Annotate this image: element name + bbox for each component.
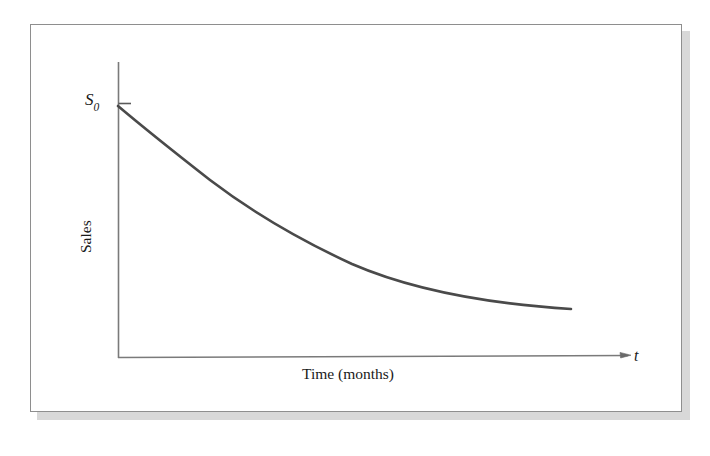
x-axis-line (118, 356, 628, 358)
y-intercept-label: S0 (85, 91, 99, 112)
figure-canvas: Sales S0 Time (months) t (0, 0, 710, 456)
plot-area (0, 0, 710, 456)
y-intercept-label-subscript: 0 (94, 101, 100, 113)
y-axis-title: Sales (78, 220, 94, 253)
x-axis-arrowhead-icon (620, 352, 631, 358)
y-intercept-label-base: S (85, 90, 94, 109)
x-axis-variable-label: t (634, 348, 638, 364)
x-axis-title: Time (months) (302, 366, 394, 382)
sales-decay-curve (118, 106, 571, 309)
